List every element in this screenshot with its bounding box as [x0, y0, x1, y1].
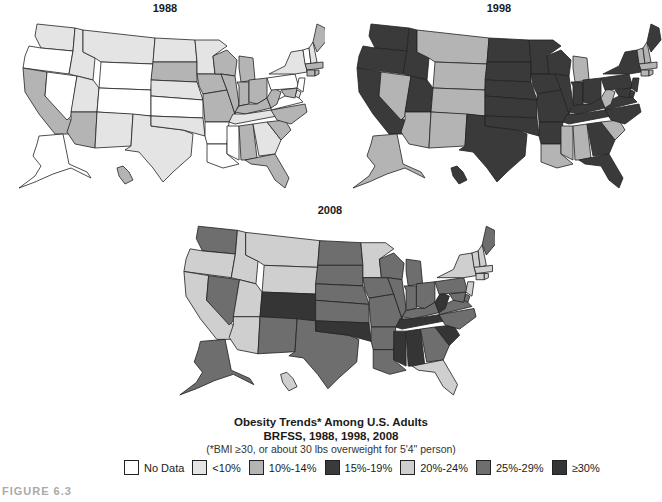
- state-ms: [394, 331, 406, 366]
- state-ri: [649, 70, 653, 76]
- legend-swatch: [249, 460, 264, 475]
- figure-label: FIGURE 6.3: [2, 485, 72, 497]
- state-ct: [307, 70, 315, 76]
- legend-swatch: [325, 460, 340, 475]
- state-sd: [151, 62, 197, 82]
- legend-label: 10%-14%: [269, 462, 317, 474]
- legend-swatch: [192, 460, 207, 475]
- state-ks: [151, 96, 203, 118]
- state-nd: [487, 38, 531, 62]
- state-wa: [35, 24, 75, 51]
- state-ms: [227, 126, 239, 160]
- state-mi: [406, 259, 422, 286]
- state-hi: [451, 166, 467, 184]
- legend-item-25-29: 25%-29%: [476, 460, 544, 475]
- state-in: [571, 82, 583, 106]
- state-in: [237, 82, 249, 106]
- state-ct: [641, 70, 649, 76]
- state-pa: [267, 74, 299, 90]
- state-ks: [485, 96, 537, 118]
- state-mi: [573, 56, 589, 82]
- state-ms: [561, 126, 573, 160]
- legend-swatch: [476, 460, 491, 475]
- legend-swatch: [400, 460, 415, 475]
- state-nm: [258, 317, 297, 354]
- state-sd: [485, 62, 531, 82]
- state-ct: [476, 274, 484, 280]
- state-co: [97, 88, 151, 116]
- state-nj: [631, 78, 639, 92]
- legend-label: 20%-24%: [420, 462, 468, 474]
- state-ny: [603, 50, 641, 74]
- state-fl: [245, 154, 289, 188]
- legend: No Data <10% 10%-14% 15%-19% 20%-24% 25%…: [124, 460, 608, 475]
- map-title-1988: 1988: [5, 2, 325, 14]
- state-az: [401, 112, 431, 148]
- us-map-1998: [336, 16, 662, 191]
- state-wy: [99, 62, 153, 90]
- legend-label: <10%: [212, 462, 240, 474]
- legend-swatch: [124, 460, 139, 475]
- legend-item-20-24: 20%-24%: [400, 460, 468, 475]
- state-nm: [429, 112, 467, 148]
- state-fl: [412, 360, 457, 395]
- legend-item-no-data: No Data: [124, 460, 184, 475]
- legend-label: 15%-19%: [345, 462, 393, 474]
- map-1988: 1988: [5, 2, 325, 192]
- us-map-2008: [165, 218, 495, 398]
- state-nd: [153, 38, 197, 62]
- state-nj: [297, 78, 305, 92]
- chart-note: (*BMI ≥30, or about 30 lbs overweight fo…: [0, 443, 662, 455]
- us-map-1988: [5, 16, 325, 191]
- state-hi: [281, 372, 297, 391]
- state-me: [482, 226, 495, 255]
- state-hi: [117, 166, 133, 184]
- legend-item-lt10: <10%: [192, 460, 240, 475]
- state-ar: [205, 122, 229, 144]
- state-wy: [433, 62, 487, 90]
- state-ar: [371, 327, 396, 350]
- legend-item-15-19: 15%-19%: [325, 460, 393, 475]
- map-2008: 2008: [165, 204, 495, 404]
- state-nm: [95, 112, 133, 148]
- state-pa: [435, 278, 468, 294]
- state-ny: [437, 253, 476, 278]
- state-co: [431, 88, 485, 116]
- legend-label: 25%-29%: [496, 462, 544, 474]
- state-ri: [315, 70, 319, 76]
- state-ar: [539, 122, 563, 144]
- state-fl: [579, 154, 623, 188]
- legend-item-30-plus: ≥30%: [552, 460, 600, 475]
- legend-label: ≥30%: [572, 462, 600, 474]
- map-title-1998: 1998: [336, 2, 662, 14]
- legend-label: No Data: [144, 462, 184, 474]
- state-nj: [466, 282, 474, 296]
- state-wa: [196, 226, 237, 254]
- state-ks: [316, 300, 369, 323]
- map-1998: 1998: [336, 2, 662, 192]
- state-in: [404, 286, 416, 311]
- legend-swatch: [552, 460, 567, 475]
- chart-subtitle: BRFSS, 1988, 1998, 2008: [0, 430, 662, 442]
- state-sd: [316, 265, 363, 286]
- state-nd: [318, 241, 363, 266]
- chart-title: Obesity Trends* Among U.S. Adults: [0, 416, 662, 428]
- state-me: [313, 24, 325, 52]
- state-az: [67, 112, 97, 148]
- state-co: [260, 292, 316, 321]
- state-wy: [262, 265, 318, 294]
- state-ri: [484, 274, 488, 280]
- state-wa: [369, 24, 409, 51]
- state-pa: [601, 74, 633, 90]
- state-az: [229, 317, 260, 354]
- state-mi: [239, 56, 255, 82]
- state-me: [647, 24, 661, 52]
- legend-item-10-14: 10%-14%: [249, 460, 317, 475]
- map-title-2008: 2008: [165, 204, 495, 216]
- state-ny: [269, 50, 307, 74]
